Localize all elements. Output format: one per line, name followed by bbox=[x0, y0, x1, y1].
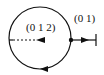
bottom-arrowhead-icon bbox=[40, 66, 48, 72]
outgoing-arrowhead-icon bbox=[81, 37, 89, 43]
diagram-canvas: (0 1 2) (0 1) bbox=[0, 0, 104, 75]
outer-label: (0 1) bbox=[74, 12, 95, 25]
inner-label: (0 1 2) bbox=[26, 21, 56, 34]
inner-arrowhead-icon bbox=[36, 37, 45, 43]
cycle-circle bbox=[9, 7, 71, 69]
